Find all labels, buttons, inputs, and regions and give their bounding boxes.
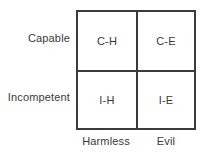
column-label-harmless: Harmless [76, 135, 136, 147]
column-label-evil: Evil [136, 135, 196, 147]
matrix-grid: C-H C-E I-H I-E [76, 10, 196, 130]
row-label-incompetent: Incompetent [0, 91, 70, 103]
matrix-cell-label: I-E [159, 94, 174, 106]
row-label-capable: Capable [0, 32, 70, 44]
matrix-cell-capable-harmless[interactable]: C-H [78, 12, 136, 70]
matrix-cell-capable-evil[interactable]: C-E [136, 12, 194, 70]
matrix-cell-label: C-H [97, 35, 117, 47]
matrix-cell-incompetent-harmless[interactable]: I-H [78, 70, 136, 128]
matrix-diagram: Capable Incompetent C-H C-E I-H I-E Harm… [0, 0, 204, 154]
matrix-cell-label: C-E [156, 35, 176, 47]
matrix-cell-incompetent-evil[interactable]: I-E [136, 70, 194, 128]
matrix-cell-label: I-H [99, 94, 114, 106]
